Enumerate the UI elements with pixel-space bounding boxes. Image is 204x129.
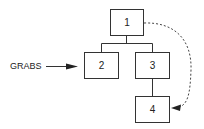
node-2-label: 2: [99, 60, 105, 71]
node-4: 4: [135, 96, 170, 123]
dashed-arrowhead-icon: [171, 105, 181, 112]
node-3-label: 3: [150, 60, 156, 71]
grabs-arrowhead-icon: [66, 64, 78, 70]
node-4-label: 4: [150, 104, 156, 115]
node-2: 2: [84, 52, 119, 79]
grabs-label: GRABS: [10, 61, 42, 71]
node-1: 1: [110, 9, 144, 36]
node-1-label: 1: [124, 17, 130, 28]
node-3: 3: [135, 52, 170, 79]
